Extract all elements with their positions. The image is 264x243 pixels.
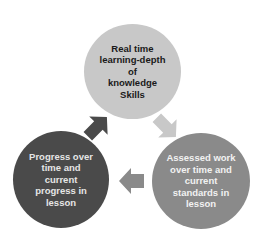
label-line: lesson — [186, 198, 216, 209]
node-real-time-learning: Real time learning-depth of knowledge Sk… — [84, 24, 181, 119]
label-line: standards in — [173, 187, 230, 198]
label-line: current — [45, 174, 78, 185]
label-line: progress in — [35, 185, 87, 196]
label-line: current — [185, 175, 218, 186]
label-line: time and — [41, 162, 80, 173]
label-line: learning-depth — [100, 54, 166, 65]
label-line: over time and — [170, 164, 232, 175]
label-line: of — [128, 66, 137, 77]
node-assessed-work: Assessed work over time and current stan… — [152, 133, 250, 229]
node-label: Assessed work over time and current stan… — [166, 152, 235, 210]
label-line: lesson — [46, 197, 76, 208]
label-line: Progress over — [29, 151, 93, 162]
label-line: Assessed work — [166, 152, 235, 163]
node-progress-over-time: Progress over time and current progress … — [13, 131, 109, 228]
label-line: Skills — [120, 89, 145, 100]
node-label: Progress over time and current progress … — [29, 151, 93, 209]
node-label: Real time learning-depth of knowledge Sk… — [100, 43, 166, 101]
label-line: Real time — [111, 43, 153, 54]
cycle-diagram: Real time learning-depth of knowledge Sk… — [0, 0, 264, 243]
arrow-right-to-left — [119, 168, 144, 194]
label-line: knowledge — [108, 77, 157, 88]
